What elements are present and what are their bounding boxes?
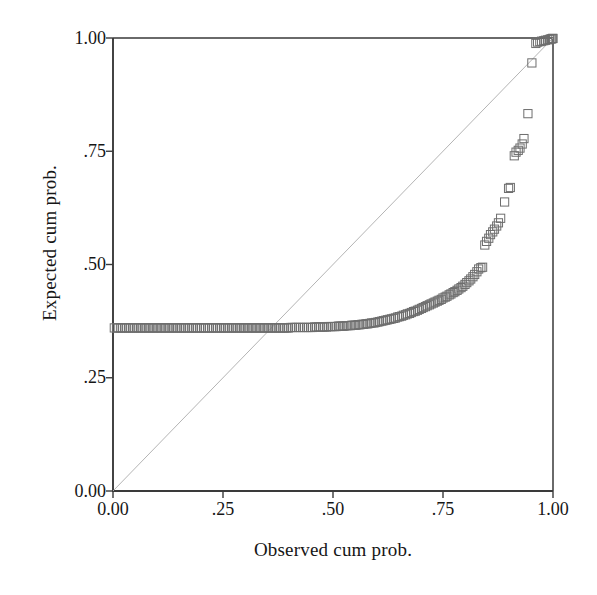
plot-canvas: [0, 0, 597, 595]
data-points: [110, 34, 557, 332]
pp-plot-figure: Expected cum prob. Observed cum prob. 1.…: [0, 0, 597, 595]
